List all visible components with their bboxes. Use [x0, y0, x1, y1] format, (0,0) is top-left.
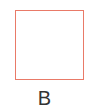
square-shape — [15, 10, 84, 80]
shape-label: B — [0, 88, 89, 108]
